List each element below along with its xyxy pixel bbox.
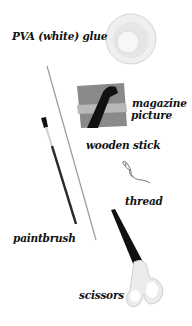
scissors-label: scissors — [79, 290, 124, 301]
magazine-label-line2: picture — [131, 110, 172, 121]
glue-label: PVA (white) glue — [12, 31, 107, 42]
thread-icon — [123, 162, 150, 184]
wooden-stick-label: wooden stick — [86, 140, 160, 151]
magazine-picture-icon — [77, 83, 127, 128]
magazine-label-line1: magazine — [132, 98, 187, 109]
thread-label: thread — [125, 196, 163, 207]
paintbrush-label: paintbrush — [13, 233, 76, 244]
paintbrush-icon — [41, 117, 76, 224]
materials-drawing — [0, 0, 192, 326]
glue-dish-icon — [106, 14, 156, 64]
craft-materials-illustration: PVA (white) glue magazine picture wooden… — [0, 0, 192, 326]
